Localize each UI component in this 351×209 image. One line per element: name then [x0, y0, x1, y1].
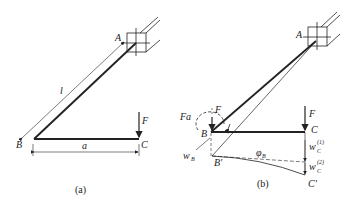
caption-a: (a) [75, 184, 86, 196]
svg-text:B: B [191, 156, 195, 162]
label-phi-b: φ B [256, 147, 266, 159]
svg-text:(1): (1) [317, 139, 324, 146]
svg-text:w: w [309, 141, 316, 152]
label-b-point: B [201, 128, 207, 139]
label-b-point: B [16, 139, 22, 150]
diagram-canvas: l a F A B C (a) [0, 0, 351, 209]
label-w-c2: w C (2) [309, 159, 324, 174]
deflection-curve [212, 156, 305, 175]
caption-b: (b) [257, 178, 269, 190]
label-a: a [82, 140, 87, 151]
bar-ab [34, 43, 136, 139]
support-b-box [303, 12, 340, 50]
figure-b: F F Fa A B B' C C' w B φ B w C (1) w [179, 12, 340, 190]
label-b-prime: B' [214, 157, 223, 168]
svg-text:w: w [309, 161, 316, 172]
label-f-b: F [214, 104, 222, 115]
label-c-point: C [141, 139, 148, 150]
label-w-c1: w C (1) [309, 139, 324, 154]
label-a-point: A [114, 32, 122, 43]
label-l: l [60, 85, 63, 96]
label-c-point: C [311, 124, 318, 135]
deflected-ab [212, 41, 316, 156]
label-fa: Fa [179, 111, 191, 122]
figure-a: l a F A B C (a) [16, 17, 160, 196]
svg-text:C: C [317, 148, 322, 154]
svg-text:(2): (2) [317, 159, 324, 166]
dimension-l [22, 42, 124, 138]
label-c-prime: C' [308, 178, 318, 189]
svg-text:C: C [317, 168, 322, 174]
svg-text:B: B [262, 153, 266, 159]
label-f: F [141, 115, 149, 126]
label-a-point: A [295, 29, 303, 40]
svg-text:w: w [183, 150, 190, 161]
bar-ab [211, 41, 316, 132]
label-f-c: F [308, 108, 316, 119]
label-w-b: w B [183, 150, 195, 162]
